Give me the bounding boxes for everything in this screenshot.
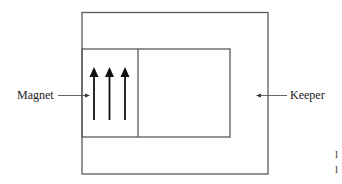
magnet-keeper-diagram: Magnet Keeper l l [0, 0, 342, 184]
keeper-label: Keeper [290, 88, 325, 102]
keeper-leader-arrow-icon [256, 94, 287, 98]
magnet-label: Magnet [17, 88, 54, 102]
margin-mark: l [335, 163, 338, 175]
margin-mark: l [335, 148, 338, 160]
magnet-leader-arrow-icon [58, 94, 90, 98]
arrowhead-icon [121, 67, 130, 77]
keeper-inner-cavity [82, 49, 230, 137]
arrowhead-icon [105, 67, 114, 77]
magnetization-arrows [90, 67, 130, 120]
arrowhead-icon [90, 67, 99, 77]
